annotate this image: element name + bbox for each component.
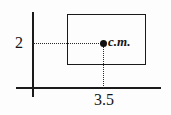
- x-axis-line: [16, 87, 161, 89]
- center-of-mass-label: c.m.: [108, 35, 130, 48]
- height-dimension-label: 2: [9, 35, 29, 51]
- center-of-mass-dot: [100, 40, 107, 47]
- y-axis-line: [32, 12, 34, 97]
- center-of-mass-figure: c.m. 2 3.5: [0, 0, 171, 115]
- width-dimension-label: 3.5: [84, 92, 124, 108]
- rectangular-body-shape: [67, 14, 146, 65]
- horizontal-dotted-leader-line: [33, 43, 103, 44]
- vertical-dotted-leader-line: [103, 43, 104, 88]
